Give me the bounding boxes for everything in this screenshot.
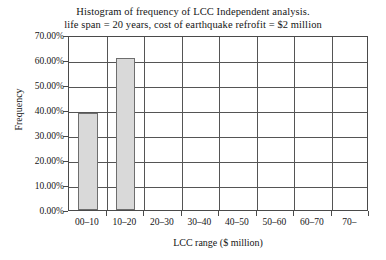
- gridline-horizontal: [69, 87, 367, 88]
- gridline-horizontal: [69, 62, 367, 63]
- x-axis-tick-label: 70–: [342, 217, 356, 227]
- histogram-chart: Histogram of frequency of LCC Independen…: [0, 0, 386, 260]
- chart-subtitle: life span = 20 years, cost of earthquake…: [0, 18, 386, 31]
- y-axis-tick-label: 20.00%: [4, 156, 64, 166]
- x-axis-tick-label: 10–20: [112, 217, 136, 227]
- gridline-horizontal: [69, 187, 367, 188]
- gridline-horizontal: [69, 137, 367, 138]
- histogram-bar: [78, 113, 98, 211]
- x-axis-tick-label: 60–70: [300, 217, 324, 227]
- y-axis-tick-label: 60.00%: [4, 56, 64, 66]
- x-axis-tick-mark: [106, 211, 107, 216]
- x-axis-tick-label: 50–60: [262, 217, 286, 227]
- y-axis-tick-label: 30.00%: [4, 131, 64, 141]
- plot-area: [68, 36, 368, 211]
- x-axis-tick-mark: [331, 211, 332, 216]
- y-axis-tick-label: 70.00%: [4, 31, 64, 41]
- x-axis-title: LCC range ($ million): [68, 237, 368, 248]
- gridline-horizontal: [69, 162, 367, 163]
- x-axis-tick-label: 30–40: [187, 217, 211, 227]
- gridline-vertical: [332, 37, 333, 210]
- gridline-vertical: [257, 37, 258, 210]
- y-axis-tick-label: 0.00%: [4, 206, 64, 216]
- chart-title-block: Histogram of frequency of LCC Independen…: [0, 5, 386, 31]
- gridline-vertical: [294, 37, 295, 210]
- x-axis-tick-mark: [181, 211, 182, 216]
- x-axis-tick-label: 20–30: [150, 217, 174, 227]
- chart-title: Histogram of frequency of LCC Independen…: [0, 5, 386, 18]
- x-axis-tick-mark: [256, 211, 257, 216]
- gridline-vertical: [107, 37, 108, 210]
- y-axis-tick-label: 10.00%: [4, 181, 64, 191]
- y-axis-tick-label: 50.00%: [4, 81, 64, 91]
- gridline-horizontal: [69, 112, 367, 113]
- x-axis-tick-label: 00–10: [75, 217, 99, 227]
- gridline-vertical: [182, 37, 183, 210]
- histogram-bar: [116, 58, 136, 211]
- x-axis-tick-mark: [143, 211, 144, 216]
- x-axis-tick-mark: [293, 211, 294, 216]
- gridline-vertical: [219, 37, 220, 210]
- y-axis-tick-label: 40.00%: [4, 106, 64, 116]
- x-axis-tick-mark: [218, 211, 219, 216]
- y-axis-tick-mark: [63, 211, 68, 212]
- x-axis-tick-mark: [368, 211, 369, 216]
- gridline-vertical: [144, 37, 145, 210]
- x-axis-tick-label: 40–50: [225, 217, 249, 227]
